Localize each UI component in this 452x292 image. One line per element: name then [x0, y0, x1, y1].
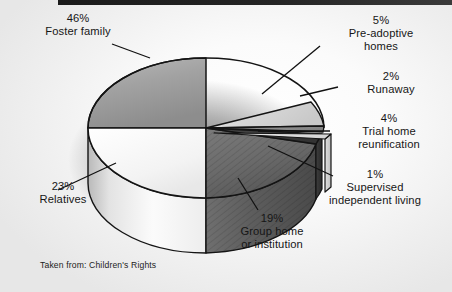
- slice-label-group-home: 19% Group home or institution: [216, 212, 328, 252]
- slice-label-supervised-independent-living: 1% Supervised independent living: [300, 168, 450, 208]
- slice-percent-runaway: 2%: [340, 70, 442, 83]
- slice-name-pre-adoptive-homes-line2: homes: [322, 40, 440, 53]
- slice-name-trial-home-reunification-line1: Trial home: [330, 125, 448, 138]
- slice-name-pre-adoptive-homes-line1: Pre-adoptive: [322, 27, 440, 40]
- slice-label-runaway: 2% Runaway: [340, 70, 442, 96]
- figure-canvas: 46% Foster family 5% Pre-adoptive homes …: [0, 0, 452, 292]
- slice-name-runaway: Runaway: [340, 83, 442, 96]
- slice-percent-pre-adoptive-homes: 5%: [322, 14, 440, 27]
- source-attribution: Taken from: Children's Rights: [40, 260, 156, 270]
- slice-name-supervised-independent-living-line1: Supervised: [300, 181, 450, 194]
- slice-percent-supervised-independent-living: 1%: [300, 168, 450, 181]
- slice-name-group-home-line1: Group home: [216, 225, 328, 238]
- slice-name-supervised-independent-living-line2: independent living: [300, 194, 450, 207]
- slice-label-foster-family: 46% Foster family: [18, 12, 138, 38]
- slice-percent-trial-home-reunification: 4%: [330, 112, 448, 125]
- slice-top-foster-family: [88, 58, 206, 128]
- slice-percent-relatives: 23%: [10, 180, 116, 193]
- slice-percent-foster-family: 46%: [18, 12, 138, 25]
- slice-name-trial-home-reunification-line2: reunification: [330, 138, 448, 151]
- slice-percent-group-home: 19%: [216, 212, 328, 225]
- slice-name-foster-family: Foster family: [18, 25, 138, 38]
- slice-name-relatives: Relatives: [10, 193, 116, 206]
- slice-name-group-home-line2: or institution: [216, 238, 328, 251]
- slice-label-trial-home-reunification: 4% Trial home reunification: [330, 112, 448, 152]
- slice-label-pre-adoptive-homes: 5% Pre-adoptive homes: [322, 14, 440, 54]
- slice-label-relatives: 23% Relatives: [10, 180, 116, 206]
- leader-line-foster-family: [112, 44, 150, 58]
